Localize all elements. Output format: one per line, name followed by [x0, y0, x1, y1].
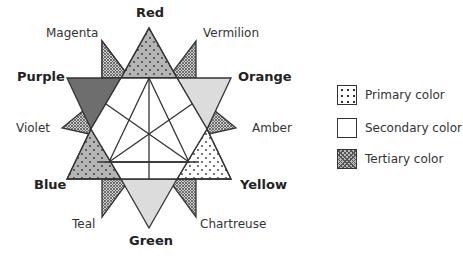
legend-label: Primary color	[365, 88, 445, 102]
label-vermilion: Vermilion	[203, 27, 259, 39]
label-purple: Purple	[17, 70, 65, 83]
label-orange: Orange	[238, 70, 292, 83]
label-green: Green	[129, 234, 173, 247]
label-blue: Blue	[34, 178, 66, 191]
legend-item-primary: Primary color	[337, 84, 445, 106]
legend-label: Tertiary color	[365, 152, 443, 166]
label-yellow: Yellow	[240, 178, 287, 191]
legend-item-tertiary: Tertiary color	[337, 148, 443, 170]
label-magenta: Magenta	[46, 27, 98, 39]
legend-label: Secondary color	[365, 121, 462, 135]
label-chartreuse: Chartreuse	[200, 218, 266, 230]
green-triangle	[121, 179, 177, 228]
red-dots	[121, 28, 177, 78]
label-amber: Amber	[252, 122, 292, 134]
dotted-swatch-icon	[337, 85, 357, 105]
label-violet: Violet	[16, 122, 50, 134]
label-red: Red	[136, 6, 164, 19]
plain-swatch-icon	[337, 118, 357, 138]
crosshatch-swatch-icon	[337, 149, 357, 169]
legend-item-secondary: Secondary color	[337, 117, 462, 139]
label-teal: Teal	[72, 218, 95, 230]
